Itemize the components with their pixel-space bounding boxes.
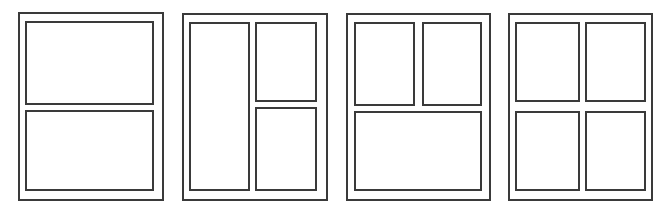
panel-3-2 xyxy=(422,22,482,106)
panel-2-2 xyxy=(255,22,317,102)
panel-4-1 xyxy=(515,22,580,102)
panel-4-4 xyxy=(585,111,646,191)
panel-4-3 xyxy=(515,111,580,191)
panel-1-2 xyxy=(25,110,154,191)
panel-2-1 xyxy=(189,22,250,191)
panel-4-2 xyxy=(585,22,646,102)
panel-3-3 xyxy=(354,111,482,191)
panel-1-1 xyxy=(25,21,154,105)
panel-3-1 xyxy=(354,22,415,106)
panel-2-3 xyxy=(255,107,317,191)
